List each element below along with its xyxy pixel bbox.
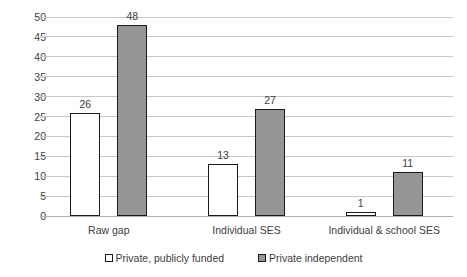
- gridline: [40, 116, 453, 117]
- gridline: [40, 76, 453, 77]
- gridline: [40, 196, 453, 197]
- gridline: [40, 136, 453, 137]
- legend-item-private-publicly-funded: Private, publicly funded: [105, 252, 225, 264]
- gridline: [40, 176, 453, 177]
- gridline: [40, 56, 453, 57]
- bar-value-label: 11: [402, 158, 413, 169]
- gridline: [40, 17, 453, 18]
- gridline: [40, 216, 453, 217]
- x-axis-category-label: Individual SES: [212, 224, 280, 236]
- legend-item-private-independent: Private independent: [258, 252, 362, 264]
- gridline: [40, 156, 453, 157]
- bar-chart: 0 5 10 15 20 25 30 35 40 45 50 Private, …: [0, 0, 467, 277]
- bar-value-label: 27: [264, 95, 276, 106]
- legend-label: Private, publicly funded: [116, 252, 225, 264]
- bar-value-label: 48: [126, 11, 138, 22]
- gridline: [40, 36, 453, 37]
- bar-series-a: [208, 164, 238, 216]
- chart-legend: Private, publicly funded Private indepen…: [0, 252, 467, 264]
- bar-series-b: [255, 109, 285, 216]
- bar-series-a: [70, 113, 100, 216]
- x-axis-category-label: Raw gap: [88, 224, 129, 236]
- x-axis-category-label: Individual & school SES: [328, 224, 439, 236]
- bar-value-label: 13: [217, 150, 229, 161]
- plot-area: [40, 17, 453, 216]
- bar-series-b: [393, 172, 423, 216]
- bar-value-label: 1: [358, 198, 364, 209]
- gridline: [40, 96, 453, 97]
- legend-swatch-icon: [105, 254, 113, 262]
- legend-swatch-icon: [258, 254, 266, 262]
- bar-value-label: 26: [79, 99, 91, 110]
- legend-label: Private independent: [269, 252, 362, 264]
- bar-series-b: [117, 25, 147, 216]
- bar-series-a: [346, 212, 376, 216]
